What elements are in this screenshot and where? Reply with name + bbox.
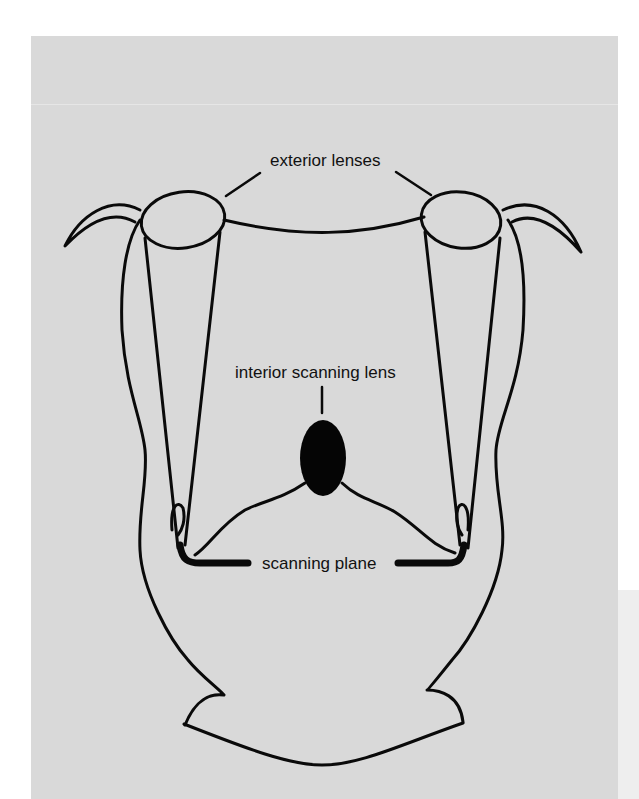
exterior-lens-left [138, 186, 229, 253]
scanning-plane-bar-left [180, 545, 248, 563]
exterior-lens-leader-left [226, 173, 260, 196]
exterior-lens-right [417, 187, 504, 254]
retina-membrane-left [195, 483, 305, 555]
exterior-lenses-label: exterior lenses [270, 152, 381, 169]
eye-diagram [0, 0, 639, 799]
retina-membrane-right [342, 483, 455, 553]
exterior-lens-leader-right [396, 172, 431, 195]
body-bottom [184, 723, 463, 765]
light-cone-left-outer [145, 238, 178, 548]
top-membrane [224, 217, 424, 232]
interior-scanning-lens-label: interior scanning lens [235, 364, 396, 381]
right-horn [503, 205, 581, 252]
interior-scanning-lens [300, 420, 346, 496]
scanning-plane-label: scanning plane [262, 555, 376, 572]
light-cone-right-outer [468, 238, 500, 548]
left-horn [65, 205, 140, 246]
light-cone-right-inner [425, 232, 460, 545]
light-cone-left-inner [185, 232, 220, 545]
body-outline-left [122, 220, 224, 725]
